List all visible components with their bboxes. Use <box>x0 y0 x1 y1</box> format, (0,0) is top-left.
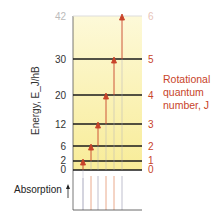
energy-label-30: 30 <box>55 54 67 65</box>
j-label-2: 2 <box>148 141 154 152</box>
energy-label-12: 12 <box>55 119 67 130</box>
energy-label-42: 42 <box>55 11 67 22</box>
energy-panel <box>73 16 142 170</box>
j-label-4: 4 <box>148 90 154 101</box>
rotational-title-line-3: number, J <box>163 99 209 111</box>
j-label-3: 3 <box>148 119 154 130</box>
j-label-0: 0 <box>148 164 154 175</box>
energy-axis-title: Energy, E_J/hB <box>30 66 41 135</box>
energy-label-20: 20 <box>55 90 67 101</box>
rotational-title-line-1: Rotational <box>163 73 210 85</box>
energy-label-0: 0 <box>60 164 66 175</box>
j-label-6: 6 <box>148 11 154 22</box>
energy-label-6: 6 <box>60 141 66 152</box>
absorption-spectrum <box>83 176 122 210</box>
absorption-label: Absorption <box>14 184 62 195</box>
rotational-title-line-2: quantum <box>163 86 204 98</box>
absorption-arrow-head-icon <box>66 184 70 189</box>
j-label-5: 5 <box>148 54 154 65</box>
